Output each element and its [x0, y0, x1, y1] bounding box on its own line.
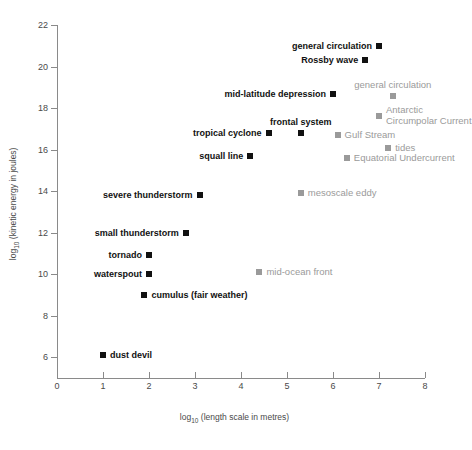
data-point-label: Equatorial Undercurrent	[354, 153, 455, 164]
data-point-label: Rossby wave	[301, 55, 358, 65]
x-tick-4	[241, 372, 242, 378]
data-point-label: dust devil	[110, 350, 152, 360]
data-point-label: mid-latitude depression	[224, 88, 326, 98]
data-point-label: squall line	[199, 151, 243, 161]
data-point-label: tornado	[109, 250, 143, 260]
y-tick-label-16: 16	[38, 145, 48, 155]
data-marker	[266, 130, 272, 136]
y-tick-6	[51, 357, 57, 358]
data-marker	[298, 190, 304, 196]
y-tick-12	[51, 233, 57, 234]
y-axis-title: log10 (kinetic energy in joules)	[8, 124, 20, 284]
y-tick-20	[51, 67, 57, 68]
data-point-label: severe thunderstorm	[103, 190, 193, 200]
y-tick-10	[51, 274, 57, 275]
data-point-label: general circulation	[292, 41, 372, 51]
y-tick-label-8: 8	[43, 311, 48, 321]
data-marker	[385, 145, 391, 151]
x-tick-8	[425, 372, 426, 378]
x-tick-7	[379, 372, 380, 378]
y-tick-label-10: 10	[38, 269, 48, 279]
y-tick-label-14: 14	[38, 186, 48, 196]
y-tick-22	[51, 25, 57, 26]
data-marker	[390, 93, 396, 99]
data-marker	[247, 153, 253, 159]
data-point-label: AntarcticCircumpolar Current	[386, 106, 472, 127]
x-tick-0	[57, 372, 58, 378]
data-point-label: cumulus (fair weather)	[151, 290, 247, 300]
x-tick-label-5: 5	[284, 381, 289, 391]
x-tick-label-8: 8	[422, 381, 427, 391]
data-point-label: waterspout	[94, 269, 142, 279]
y-tick-label-22: 22	[38, 20, 48, 30]
x-tick-label-0: 0	[54, 381, 59, 391]
x-axis-title: log10 (length scale in metres)	[0, 412, 469, 424]
data-marker	[146, 271, 152, 277]
y-tick-14	[51, 191, 57, 192]
x-tick-label-2: 2	[146, 381, 151, 391]
y-tick-8	[51, 316, 57, 317]
x-tick-5	[287, 372, 288, 378]
x-tick-label-1: 1	[100, 381, 105, 391]
x-tick-label-6: 6	[330, 381, 335, 391]
x-tick-label-7: 7	[376, 381, 381, 391]
x-tick-3	[195, 372, 196, 378]
data-marker	[298, 130, 304, 136]
y-axis-line	[57, 25, 58, 378]
y-tick-18	[51, 108, 57, 109]
data-point-label: general circulation	[354, 79, 431, 90]
y-tick-16	[51, 150, 57, 151]
data-point-label: Gulf Stream	[345, 130, 396, 141]
y-tick-label-6: 6	[43, 352, 48, 362]
data-marker	[256, 269, 262, 275]
data-point-label: frontal system	[270, 117, 332, 127]
data-marker	[362, 57, 368, 63]
y-tick-label-12: 12	[38, 228, 48, 238]
data-marker	[335, 132, 341, 138]
data-marker	[197, 192, 203, 198]
data-marker	[141, 292, 147, 298]
data-marker	[146, 252, 152, 258]
data-point-label: mid-ocean front	[266, 267, 332, 278]
x-tick-label-3: 3	[192, 381, 197, 391]
y-tick-label-18: 18	[38, 103, 48, 113]
x-tick-2	[149, 372, 150, 378]
data-marker	[376, 43, 382, 49]
x-axis-line	[57, 378, 425, 379]
x-tick-label-4: 4	[238, 381, 243, 391]
data-marker	[183, 230, 189, 236]
x-tick-1	[103, 372, 104, 378]
data-marker	[330, 91, 336, 97]
data-point-label: mesoscale eddy	[308, 188, 377, 199]
data-point-label: small thunderstorm	[95, 228, 179, 238]
data-point-label: tropical cyclone	[193, 128, 262, 138]
data-marker	[100, 352, 106, 358]
data-marker	[376, 113, 382, 119]
y-tick-label-20: 20	[38, 62, 48, 72]
data-marker	[344, 155, 350, 161]
x-tick-6	[333, 372, 334, 378]
